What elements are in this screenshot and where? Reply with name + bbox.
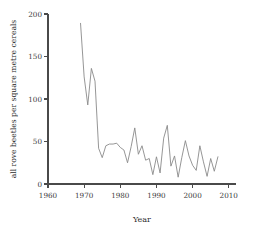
y-axis-title: all rove beetles per square metre cereal…	[9, 20, 18, 179]
y-axis-ticks	[44, 14, 48, 184]
x-tick-label: 2000	[183, 191, 202, 200]
x-tick-label: 1980	[111, 191, 130, 200]
y-axis-tick-labels: 050100150200	[28, 10, 42, 189]
y-tick-label: 100	[28, 95, 42, 104]
y-tick-label: 0	[37, 180, 42, 189]
y-tick-label: 200	[28, 10, 42, 19]
x-tick-label: 1960	[39, 191, 58, 200]
y-tick-label: 50	[33, 137, 43, 146]
x-tick-label: 1990	[147, 191, 166, 200]
data-series-line	[81, 23, 218, 177]
x-tick-label: 1970	[75, 191, 94, 200]
y-tick-label: 150	[28, 52, 42, 61]
line-chart: 050100150200 196019701980199020002010 Ye…	[0, 0, 262, 229]
x-axis-tick-labels: 196019701980199020002010	[39, 191, 238, 200]
chart-figure: 050100150200 196019701980199020002010 Ye…	[0, 0, 262, 229]
x-axis-ticks	[48, 184, 229, 188]
x-tick-label: 2010	[220, 191, 239, 200]
x-axis-title: Year	[132, 215, 151, 224]
